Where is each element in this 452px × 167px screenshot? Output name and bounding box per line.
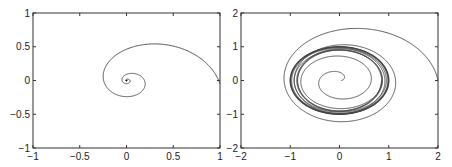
y-tick-label: −1 bbox=[19, 143, 31, 154]
y-tick-label: −0.5 bbox=[10, 109, 30, 120]
left-phase-plot: −1−0.500.51−1−0.500.51 bbox=[10, 8, 223, 163]
x-tick-label: −0.5 bbox=[70, 151, 90, 162]
axes-frame bbox=[241, 13, 438, 148]
y-tick-label: 2 bbox=[232, 8, 238, 19]
x-tick-label: 1 bbox=[386, 151, 392, 162]
right-phase-plot: −2−1012−2−1012 bbox=[227, 8, 442, 163]
figure: −1−0.500.51−1−0.500.51 −2−1012−2−1012 bbox=[0, 0, 452, 167]
y-tick-label: 1 bbox=[24, 8, 30, 19]
y-tick-label: −2 bbox=[227, 143, 239, 154]
y-tick-label: 0.5 bbox=[16, 41, 30, 52]
trajectory-curve bbox=[103, 44, 220, 97]
outer-trajectory-curve bbox=[284, 28, 438, 121]
y-tick-label: 0 bbox=[232, 75, 238, 86]
y-tick-label: 1 bbox=[232, 41, 238, 52]
y-tick-label: 0 bbox=[24, 75, 30, 86]
x-tick-label: −1 bbox=[285, 151, 297, 162]
x-tick-label: 0 bbox=[337, 151, 343, 162]
y-tick-label: −1 bbox=[227, 109, 239, 120]
x-tick-label: 1 bbox=[217, 151, 223, 162]
limit-cycle-curve bbox=[290, 47, 389, 115]
x-tick-label: 2 bbox=[435, 151, 441, 162]
x-tick-label: 0 bbox=[124, 151, 130, 162]
x-tick-label: 0.5 bbox=[166, 151, 180, 162]
